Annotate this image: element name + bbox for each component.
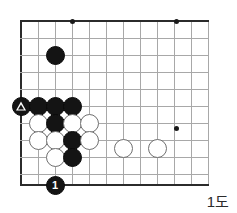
grid-line-horizontal	[20, 89, 209, 90]
grid-line-horizontal	[20, 72, 209, 73]
black-stone-row1-b[interactable]	[46, 97, 65, 116]
black-stone-row1-c[interactable]	[63, 97, 82, 116]
black-stone-row2-b[interactable]	[46, 114, 65, 133]
black-stone-row1-a[interactable]	[29, 97, 48, 116]
diagram-caption: 1도	[207, 190, 230, 211]
black-stone-row4-b[interactable]	[63, 148, 82, 167]
board-edge-top	[20, 20, 209, 22]
black-stone-marked-triangle[interactable]	[12, 97, 31, 116]
grid-line-vertical	[106, 20, 107, 186]
white-stone-isolated-right[interactable]	[148, 139, 167, 158]
star-point-top-right	[174, 19, 179, 24]
grid-line-vertical	[140, 20, 141, 186]
grid-line-vertical	[89, 20, 90, 186]
white-stone-row3-b[interactable]	[46, 131, 65, 150]
white-stone-row4-a[interactable]	[46, 148, 65, 167]
white-stone-row2-c[interactable]	[63, 114, 82, 133]
white-stone-row3-a[interactable]	[29, 131, 48, 150]
grid-line-vertical	[174, 20, 175, 186]
stone-move-number: 1	[47, 177, 64, 194]
black-stone-row3-c[interactable]	[63, 131, 82, 150]
white-stone-row2-d[interactable]	[80, 114, 99, 133]
grid-line-vertical	[157, 20, 158, 186]
grid-line-vertical	[123, 20, 124, 186]
grid-line-horizontal	[20, 174, 209, 175]
white-stone-row3-d[interactable]	[80, 131, 99, 150]
go-diagram: 1 1도	[0, 0, 237, 213]
black-stone-upper[interactable]	[46, 46, 65, 65]
grid-line-vertical	[208, 20, 209, 186]
black-stone-move-1[interactable]: 1	[46, 176, 65, 195]
grid-line-horizontal	[20, 38, 209, 39]
white-stone-isolated-left[interactable]	[114, 139, 133, 158]
star-point-top-left	[70, 19, 75, 24]
white-stone-row2-a[interactable]	[29, 114, 48, 133]
star-point-right	[174, 126, 179, 131]
grid-line-vertical	[191, 20, 192, 186]
triangle-marker-icon	[16, 102, 26, 111]
go-board[interactable]: 1	[0, 0, 237, 200]
